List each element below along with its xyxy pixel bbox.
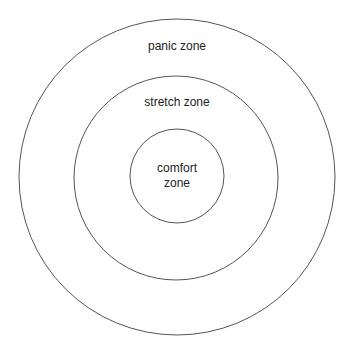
comfort-zone-label-line2: zone <box>137 176 217 190</box>
comfort-zone-label-line1: comfort <box>137 161 217 175</box>
stretch-zone-label: stretch zone <box>122 95 232 109</box>
panic-zone-label: panic zone <box>127 39 227 53</box>
